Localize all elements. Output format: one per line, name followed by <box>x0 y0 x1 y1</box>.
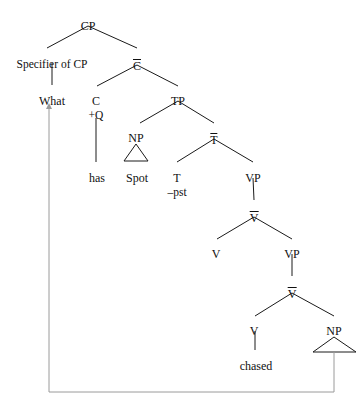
overbar-glyph-tbar: T <box>210 133 217 146</box>
np-trace-triangle <box>313 337 356 352</box>
syntax-tree-diagram: CPSpecifier of CPCWhatCTPNPThasSpotTVPVV… <box>0 0 363 404</box>
phrase-triangles <box>124 144 356 352</box>
overbar-glyph-cbar: C <box>133 59 141 72</box>
node-cp: CP <box>81 20 96 32</box>
node-v1: V <box>212 248 221 260</box>
node-vbar2: V <box>288 286 297 300</box>
branch-vbar2-to-nptrace <box>292 293 334 316</box>
overbar-glyph-vbar1: V <box>250 211 259 224</box>
node-tp: TP <box>171 95 185 107</box>
branch-cbar-to-c <box>97 65 137 86</box>
branch-tbar-to-vp1 <box>214 139 253 162</box>
np-spot-triangle <box>124 144 148 161</box>
feature-minus-pst: –pst <box>167 187 186 199</box>
node-vp2: VP <box>284 248 299 260</box>
node-vbar1: V <box>250 210 259 224</box>
node-has: has <box>89 172 105 184</box>
node-what: What <box>39 95 65 107</box>
node-vp1: VP <box>245 172 260 184</box>
branch-lines <box>47 26 334 350</box>
node-cbar: C <box>133 58 141 72</box>
node-spec-cp: Specifier of CP <box>17 58 88 70</box>
node-np-trace: NP <box>326 325 341 337</box>
branch-vbar1-to-vp2 <box>254 217 292 239</box>
node-np-spot: NP <box>128 132 143 144</box>
node-t: T <box>173 172 180 184</box>
overbar-glyph-vbar2: V <box>288 287 297 300</box>
branch-tbar-to-t <box>177 139 214 162</box>
branch-cbar-to-tp <box>137 65 178 86</box>
node-spot: Spot <box>126 172 148 184</box>
node-c: C <box>92 95 100 107</box>
feature-plus-q: +Q <box>89 110 104 122</box>
node-chased: chased <box>240 360 273 372</box>
branch-vbar1-to-v1 <box>217 217 254 239</box>
node-v2: V <box>250 325 259 337</box>
branch-vbar2-to-v2 <box>255 293 292 316</box>
node-tbar: T <box>210 132 217 146</box>
